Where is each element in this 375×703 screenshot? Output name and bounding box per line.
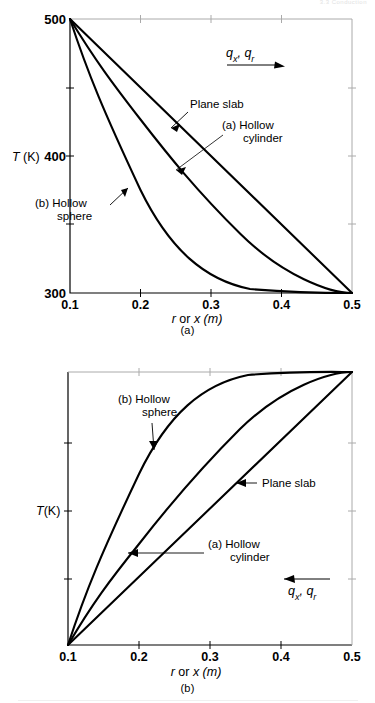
figure-a-x-tick-labels: 0.1 0.2 0.3 0.4 0.5 [61, 298, 360, 312]
figure-a-y-tick-labels: 500 400 300 [44, 12, 66, 301]
y-tick-400: 400 [44, 149, 66, 164]
curve-plane-slab-b [68, 372, 352, 645]
annotation-hollow-cylinder-a-l2: cylinder [243, 132, 283, 144]
figure-a-annotations: Plane slab (a) Hollow cylinder (b) Hollo… [35, 98, 283, 222]
figure-b-annotations: (b) Hollow sphere Plane slab (a) Hollow … [118, 393, 316, 563]
arrowhead-icon [236, 479, 246, 487]
svg-text:r or x (m): r or x (m) [171, 665, 222, 679]
y-tick-500: 500 [44, 12, 66, 27]
annotation-hollow-sphere-b-l2: sphere [142, 406, 177, 418]
annotation-hollow-sphere-a-l2: sphere [57, 210, 92, 222]
figure-b-chart: T(K) 0.1 0.2 0.3 0.4 0.5 r or x (m) qx, … [0, 340, 375, 700]
flux-arrow-label: qx, qr [288, 584, 317, 602]
annotation-hollow-sphere-a-l1: (b) Hollow [35, 197, 87, 209]
figure-a-flux-arrow: qx, qr [226, 46, 285, 69]
footer-divider [18, 700, 358, 701]
annotation-plane-slab-a: Plane slab [190, 98, 244, 110]
arrowhead-left-icon [284, 575, 295, 583]
arrowhead-right-icon [274, 62, 285, 69]
svg-text:T (K): T (K) [12, 150, 40, 164]
x-tick-0: 0.1 [61, 298, 78, 312]
annotation-hollow-sphere-b-l1: (b) Hollow [118, 393, 170, 405]
figure-a-curves [70, 19, 352, 293]
x-tick-2: 0.3 [202, 298, 219, 312]
x-tick-2: 0.3 [201, 650, 218, 664]
y-label-unit: (K) [20, 150, 40, 164]
x-tick-4: 0.5 [343, 298, 360, 312]
arrowhead-icon [121, 188, 128, 197]
figure-a-chart: 500 400 300 T (K) 0.1 0.2 0.3 0.4 0.5 r … [0, 0, 375, 340]
figure-a-y-axis-label: T (K) [12, 150, 40, 164]
flux-arrow-label: qx, qr [226, 46, 255, 64]
figure-b-x-tick-labels: 0.1 0.2 0.3 0.4 0.5 [59, 650, 360, 664]
figure-b-caption: (b) [0, 682, 375, 694]
x-tick-3: 0.4 [273, 298, 290, 312]
x-tick-1: 0.2 [130, 650, 147, 664]
figure-b-curves [68, 372, 352, 645]
annotation-hollow-cylinder-a-l1: (a) Hollow [222, 119, 274, 131]
arrowhead-icon [171, 124, 180, 132]
x-label-or: or [175, 665, 193, 679]
figure-page: 3.3 Conduction [0, 0, 375, 703]
figure-b-x-axis-label: r or x (m) [171, 665, 222, 679]
annotation-hollow-cylinder-b-l1: (a) Hollow [208, 538, 260, 550]
annotation-plane-slab-b: Plane slab [262, 477, 316, 489]
figure-b-flux-arrow: qx, qr [284, 575, 330, 602]
figure-b-y-axis-label: T(K) [36, 504, 60, 518]
curve-plane-slab-a [70, 19, 352, 293]
x-tick-0: 0.1 [59, 650, 76, 664]
arrowhead-icon [149, 441, 158, 450]
svg-text:T(K): T(K) [36, 504, 60, 518]
x-tick-3: 0.4 [272, 650, 289, 664]
x-tick-1: 0.2 [132, 298, 149, 312]
x-tick-4: 0.5 [343, 650, 360, 664]
y-label-unit: (K) [44, 504, 61, 518]
annotation-hollow-cylinder-b-l2: cylinder [230, 551, 270, 563]
figure-a-caption: (a) [0, 324, 375, 336]
x-label-unit: (m) [199, 665, 221, 679]
